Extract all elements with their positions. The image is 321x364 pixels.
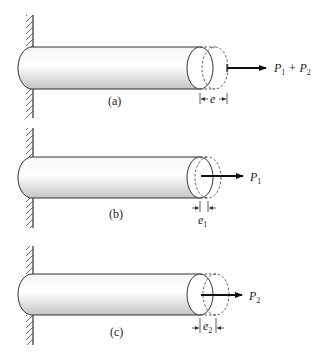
bar-cylinder — [18, 47, 213, 89]
elongation-dimension: e — [200, 92, 227, 106]
load-label: P1 — [249, 170, 261, 186]
elongation-label: e — [210, 92, 216, 106]
elongation-label: e1 — [198, 213, 207, 229]
elongation-dimension: e2 — [192, 318, 224, 335]
bar-cylinder — [18, 274, 213, 315]
bar-end-face — [187, 157, 213, 198]
panel-c: P2 e2 (c) — [18, 246, 260, 345]
load-label: P2 — [248, 289, 260, 305]
elongation-dimension: e1 — [192, 201, 216, 229]
elongation-label: e2 — [203, 319, 212, 335]
axial-load-bar-diagram: P1 + P2 e (a) — [0, 0, 321, 364]
bar-end-face — [187, 47, 213, 89]
panel-caption: (b) — [109, 207, 123, 221]
panel-b: P1 e1 (b) — [18, 128, 261, 229]
panel-caption: (a) — [108, 94, 121, 108]
bar-cylinder — [18, 157, 213, 198]
panel-caption: (c) — [110, 325, 123, 339]
load-label: P1 + P2 — [273, 61, 311, 77]
panel-a: P1 + P2 e (a) — [18, 15, 311, 118]
